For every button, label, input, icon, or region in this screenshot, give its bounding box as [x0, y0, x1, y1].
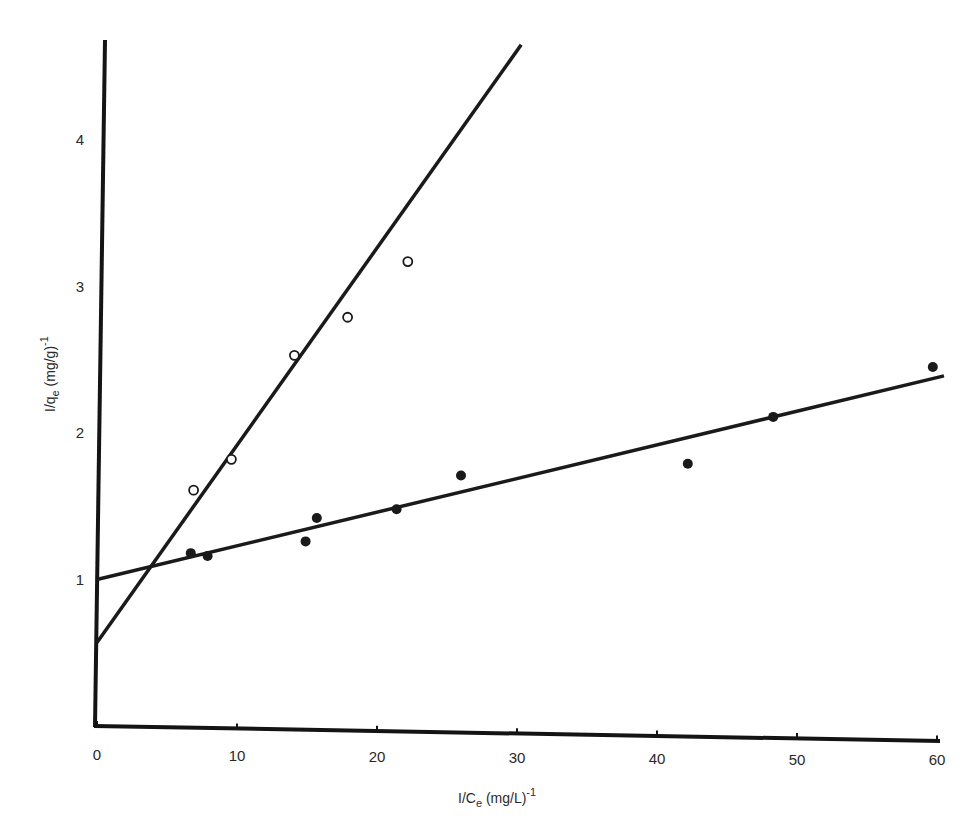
open-data-point — [290, 351, 299, 360]
open-data-point — [227, 455, 236, 464]
isotherm-chart: 0102030405060 1234 I/Ce (mg/L)-1 I/qe (m… — [0, 0, 977, 838]
filled-data-point — [392, 504, 402, 514]
data-points — [186, 257, 938, 561]
y-tick-label: 1 — [76, 571, 84, 588]
x-tick-label: 20 — [369, 748, 386, 765]
x-axis-label: I/Ce (mg/L)-1 — [458, 786, 536, 809]
open-data-point — [189, 486, 198, 495]
fit-lines — [97, 45, 944, 643]
filled-data-point — [768, 412, 778, 422]
x-tick-label: 40 — [649, 750, 666, 767]
filled-data-point — [186, 548, 196, 558]
open-data-point — [343, 313, 352, 322]
filled-data-point — [301, 536, 311, 546]
filled-data-point — [928, 362, 938, 372]
x-tick-label: 30 — [509, 749, 526, 766]
open-data-point — [403, 257, 412, 266]
y-tick-label: 4 — [76, 131, 84, 148]
filled-data-point — [203, 551, 213, 561]
filled-data-point — [312, 513, 322, 523]
y-tick-label: 2 — [76, 424, 84, 441]
x-tick-label: 50 — [789, 751, 806, 768]
fit-line — [97, 45, 521, 643]
x-tick-label: 60 — [929, 751, 946, 768]
y-axis-label: I/qe (mg/g)-1 — [38, 336, 61, 412]
x-tick-label: 0 — [93, 746, 101, 763]
y-tick-label: 3 — [76, 278, 84, 295]
x-tick-label: 10 — [229, 747, 246, 764]
y-axis — [95, 40, 105, 727]
y-ticks: 1234 — [76, 131, 84, 588]
filled-data-point — [683, 459, 693, 469]
filled-data-point — [456, 470, 466, 480]
fit-line — [97, 376, 944, 580]
